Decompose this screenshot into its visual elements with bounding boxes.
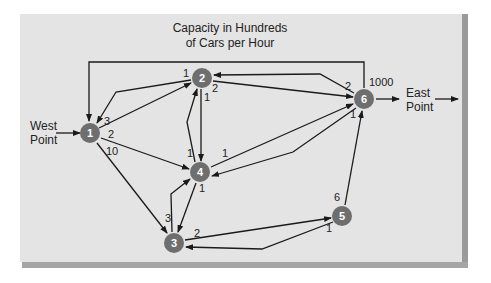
cap-1-3: 10: [106, 145, 118, 157]
svg-text:6: 6: [361, 93, 367, 105]
cap-1-4: 2: [108, 128, 114, 140]
cap-6-4: 1: [350, 108, 356, 120]
cap-1-2: 3: [104, 115, 110, 127]
node-4: 4: [190, 162, 210, 182]
cap-6-2: 2: [345, 80, 351, 92]
svg-text:4: 4: [197, 166, 204, 178]
cap-2-6: 2: [212, 82, 218, 94]
cap-4-6: 1: [222, 147, 228, 159]
cap-4-3: 1: [199, 182, 205, 194]
cap-3-5: 2: [194, 227, 200, 239]
edge-1-to-2: [99, 83, 191, 128]
cap-5-3: 1: [326, 222, 332, 234]
cap-2-4: 1: [204, 91, 210, 103]
edge-4-to-3: [178, 183, 196, 232]
edge-2-to-6: [213, 81, 353, 97]
node-1: 1: [80, 123, 100, 143]
edge-6-to-4: [212, 108, 356, 176]
cap-5-6: 6: [334, 191, 340, 203]
edge-2-to-1: [97, 80, 191, 123]
svg-text:5: 5: [339, 210, 345, 222]
node-6: 6: [354, 89, 374, 109]
edge-5-to-6: [345, 111, 362, 205]
node-3: 3: [164, 233, 184, 253]
node-5: 5: [332, 206, 352, 226]
edge-5-to-3: [186, 222, 333, 249]
svg-text:3: 3: [171, 237, 177, 249]
cap-2-1: 1: [183, 67, 189, 79]
network-graph: 1 2 3 4 5 6 3 2 10 1 2 1 1 1 1: [0, 0, 491, 283]
edge-4-to-6: [211, 104, 353, 167]
svg-text:2: 2: [199, 72, 205, 84]
cap-3-4: 3: [165, 212, 171, 224]
svg-text:1: 1: [87, 127, 93, 139]
cap-4-2: 1: [187, 147, 193, 159]
edge-3-to-5: [185, 218, 331, 240]
node-2: 2: [192, 68, 212, 88]
cap-6-1: 1000: [369, 76, 393, 88]
